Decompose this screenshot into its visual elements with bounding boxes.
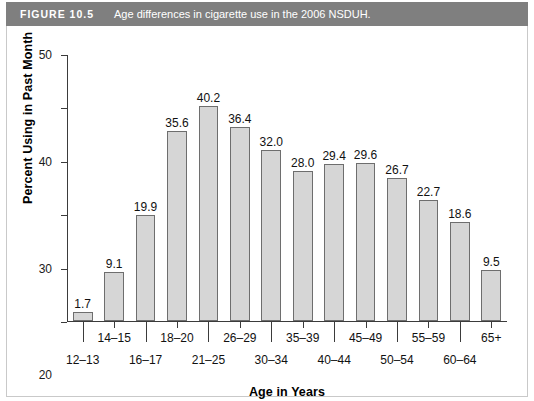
bar-value-label: 19.9 <box>134 201 157 213</box>
bar: 29.4 <box>324 164 344 321</box>
y-axis-tick-label: 30 <box>39 263 52 275</box>
y-axis-title: Percent Using in Past Month <box>21 32 35 204</box>
bar: 28.0 <box>293 171 313 321</box>
x-axis-title: Age in Years <box>67 385 507 399</box>
x-axis-category-label: 12–13 <box>66 354 99 366</box>
y-axis-tick: 40 <box>61 108 67 109</box>
bar: 22.7 <box>419 200 439 321</box>
y-axis-tick-label: 20 <box>39 369 52 381</box>
x-axis-category-label: 40–44 <box>317 354 350 366</box>
figure-container: FIGURE 10.5 Age differences in cigarette… <box>0 0 534 401</box>
x-axis-tick <box>397 322 398 342</box>
x-axis-tick <box>491 322 492 328</box>
x-axis-category-label: 16–17 <box>129 354 162 366</box>
bar-value-label: 28.0 <box>291 157 314 169</box>
x-axis-tick <box>271 322 272 342</box>
x-axis-tick <box>303 322 304 328</box>
y-axis-tick: 30 <box>61 162 67 163</box>
x-axis-tick <box>428 322 429 328</box>
x-axis-tick <box>114 322 115 328</box>
x-axis-category-label: 60–64 <box>443 354 476 366</box>
bar: 18.6 <box>450 222 470 321</box>
x-axis-category-label: 45–49 <box>349 332 382 344</box>
x-axis-tick <box>460 322 461 342</box>
bar-value-label: 29.4 <box>322 150 345 162</box>
x-axis-category-label: 26–29 <box>223 332 256 344</box>
figure-caption-bar: FIGURE 10.5 Age differences in cigarette… <box>6 2 528 26</box>
bar: 35.6 <box>167 131 187 321</box>
x-axis-category-label: 18–20 <box>160 332 193 344</box>
bar: 19.9 <box>136 215 156 321</box>
x-axis-category-label: 30–34 <box>255 354 288 366</box>
x-axis-tick <box>240 322 241 328</box>
bar-value-label: 29.6 <box>354 149 377 161</box>
bar-value-label: 22.7 <box>417 186 440 198</box>
x-axis-category-label: 50–54 <box>380 354 413 366</box>
bar-value-label: 18.6 <box>448 208 471 220</box>
figure-number-label: FIGURE 10.5 <box>20 8 94 20</box>
bar-value-label: 36.4 <box>228 113 251 125</box>
bar-value-label: 26.7 <box>385 164 408 176</box>
bar-value-label: 40.2 <box>197 92 220 104</box>
bar-value-label: 9.5 <box>483 256 500 268</box>
y-axis-tick: 20 <box>61 215 67 216</box>
bar: 40.2 <box>199 106 219 321</box>
bar-value-label: 1.7 <box>74 298 91 310</box>
bar-value-label: 32.0 <box>260 136 283 148</box>
bar: 32.0 <box>261 150 281 321</box>
x-axis-category-label: 21–25 <box>192 354 225 366</box>
bar: 9.5 <box>481 270 501 321</box>
x-axis-category-label: 35–39 <box>286 332 319 344</box>
x-axis-tick <box>146 322 147 342</box>
y-axis-tick-label: 40 <box>39 156 52 168</box>
x-axis-category-label: 55–59 <box>412 332 445 344</box>
plot-area: 01020304050 1.79.119.935.640.236.432.028… <box>67 55 507 322</box>
figure-body: Percent Using in Past Month 01020304050 … <box>6 26 528 397</box>
y-axis-tick: 10 <box>61 269 67 270</box>
x-axis-line <box>67 321 507 322</box>
y-axis-tick-label: 50 <box>39 49 52 61</box>
y-axis-line <box>67 55 68 322</box>
bar: 29.6 <box>356 163 376 321</box>
bar: 1.7 <box>73 312 93 321</box>
bar: 9.1 <box>104 272 124 321</box>
x-axis-category-label: 65+ <box>481 332 501 344</box>
x-axis-tick <box>83 322 84 342</box>
x-axis-category-label: 14–15 <box>97 332 130 344</box>
y-axis-tick: 50 <box>61 55 67 56</box>
y-axis-tick: 0 <box>61 322 67 323</box>
bar: 26.7 <box>387 178 407 321</box>
x-axis-tick <box>208 322 209 342</box>
x-axis-tick <box>334 322 335 342</box>
x-axis-tick <box>177 322 178 328</box>
bar: 36.4 <box>230 127 250 321</box>
x-axis-tick <box>366 322 367 328</box>
figure-caption-text: Age differences in cigarette use in the … <box>114 8 371 20</box>
bar-value-label: 9.1 <box>106 258 123 270</box>
bar-value-label: 35.6 <box>165 117 188 129</box>
